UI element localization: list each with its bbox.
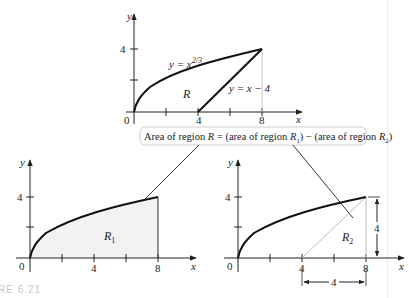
region-r2-label: R2 (341, 230, 353, 246)
triangle-hypotenuse (302, 197, 366, 258)
x-axis-label: x (398, 260, 404, 272)
figure-caption: RE 6.21 (0, 284, 41, 295)
origin-label: 0 (124, 114, 130, 126)
x-tick-8: 8 (155, 262, 161, 274)
region-r1-fill (30, 197, 158, 258)
y-tick-4: 4 (120, 43, 126, 55)
region-r-label: R (182, 87, 191, 101)
width-dimension-label: 4 (331, 276, 337, 288)
y-axis-label: y (227, 156, 233, 168)
origin-label: 0 (227, 260, 233, 272)
y-axis-label: y (126, 10, 132, 22)
origin-label: 0 (19, 260, 25, 272)
line-label: y = x − 4 (228, 82, 271, 94)
formula-box: Area of region R = (area of region R1) −… (131, 127, 393, 218)
x-tick-4: 4 (196, 114, 202, 126)
curve-label: y = x2/3 (168, 56, 202, 70)
x-axis-label: x (190, 260, 196, 272)
x-tick-4: 4 (91, 262, 97, 274)
x-tick-4: 4 (299, 262, 305, 274)
x-tick-8: 8 (259, 114, 265, 126)
x-axis-label: x (295, 113, 301, 125)
x-tick-8: 8 (363, 262, 369, 274)
left-graph: y x 0 4 8 4 R1 (16, 156, 196, 274)
top-graph: y x 0 4 8 4 y = x2/3 y = x − 4 R (120, 10, 302, 126)
figure-canvas: y x 0 4 8 4 y = x2/3 y = x − 4 R Area of… (0, 0, 409, 298)
right-graph: 4 4 y x 0 4 8 4 R2 (224, 156, 404, 288)
y-tick-4: 4 (17, 191, 23, 203)
y-axis-label: y (19, 156, 25, 168)
line-x-minus-4 (198, 49, 262, 112)
height-dimension-label: 4 (374, 222, 380, 234)
y-tick-4: 4 (225, 191, 231, 203)
